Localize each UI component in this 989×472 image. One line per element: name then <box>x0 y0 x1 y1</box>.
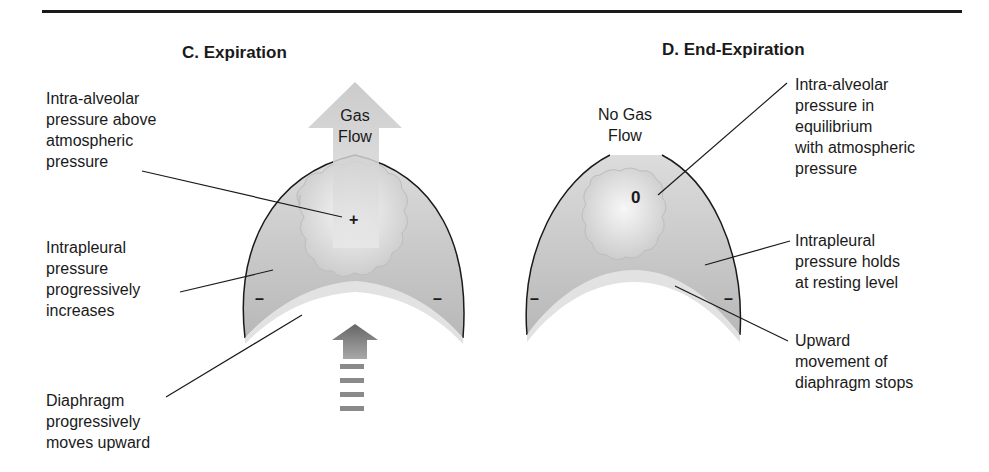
pleural-minus-right-d: – <box>724 290 733 308</box>
no-gas-flow-label: No Gas Flow <box>585 104 665 146</box>
panel-d-title: D. End-Expiration <box>662 40 805 60</box>
pleural-minus-left-d: – <box>530 290 539 308</box>
annotation-intra-alveolar-c: Intra-alveolar pressure above atmospheri… <box>46 88 156 172</box>
annotation-intra-alveolar-d: Intra-alveolar pressure in equilibrium w… <box>795 74 915 179</box>
annotation-diaphragm-c: Diaphragm progressively moves upward <box>46 390 150 453</box>
gas-flow-label: Gas Flow <box>322 105 388 147</box>
panel-c-title: C. Expiration <box>182 43 287 63</box>
alveolar-pressure-zero: 0 <box>631 188 640 208</box>
pleural-minus-right-c: – <box>433 290 442 308</box>
alveolar-pressure-plus: + <box>349 211 358 229</box>
annotation-intrapleural-d: Intrapleural pressure holds at resting l… <box>795 230 900 293</box>
pleural-minus-left-c: – <box>255 290 264 308</box>
annotation-diaphragm-d: Upward movement of diaphragm stops <box>795 330 913 393</box>
lung-end-expiration <box>526 155 740 342</box>
annotation-intrapleural-c: Intrapleural pressure progressively incr… <box>46 237 140 321</box>
